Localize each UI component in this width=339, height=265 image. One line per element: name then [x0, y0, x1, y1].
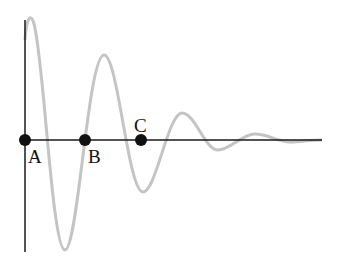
point-a-dot — [19, 134, 31, 146]
point-b-label: B — [88, 147, 101, 166]
oscillation-diagram — [0, 0, 339, 265]
point-a-label: A — [28, 147, 42, 166]
point-b-dot — [79, 134, 91, 146]
diagram-canvas: A B C — [0, 0, 339, 265]
point-c-label: C — [134, 116, 147, 135]
damped-wave-curve — [25, 18, 322, 250]
